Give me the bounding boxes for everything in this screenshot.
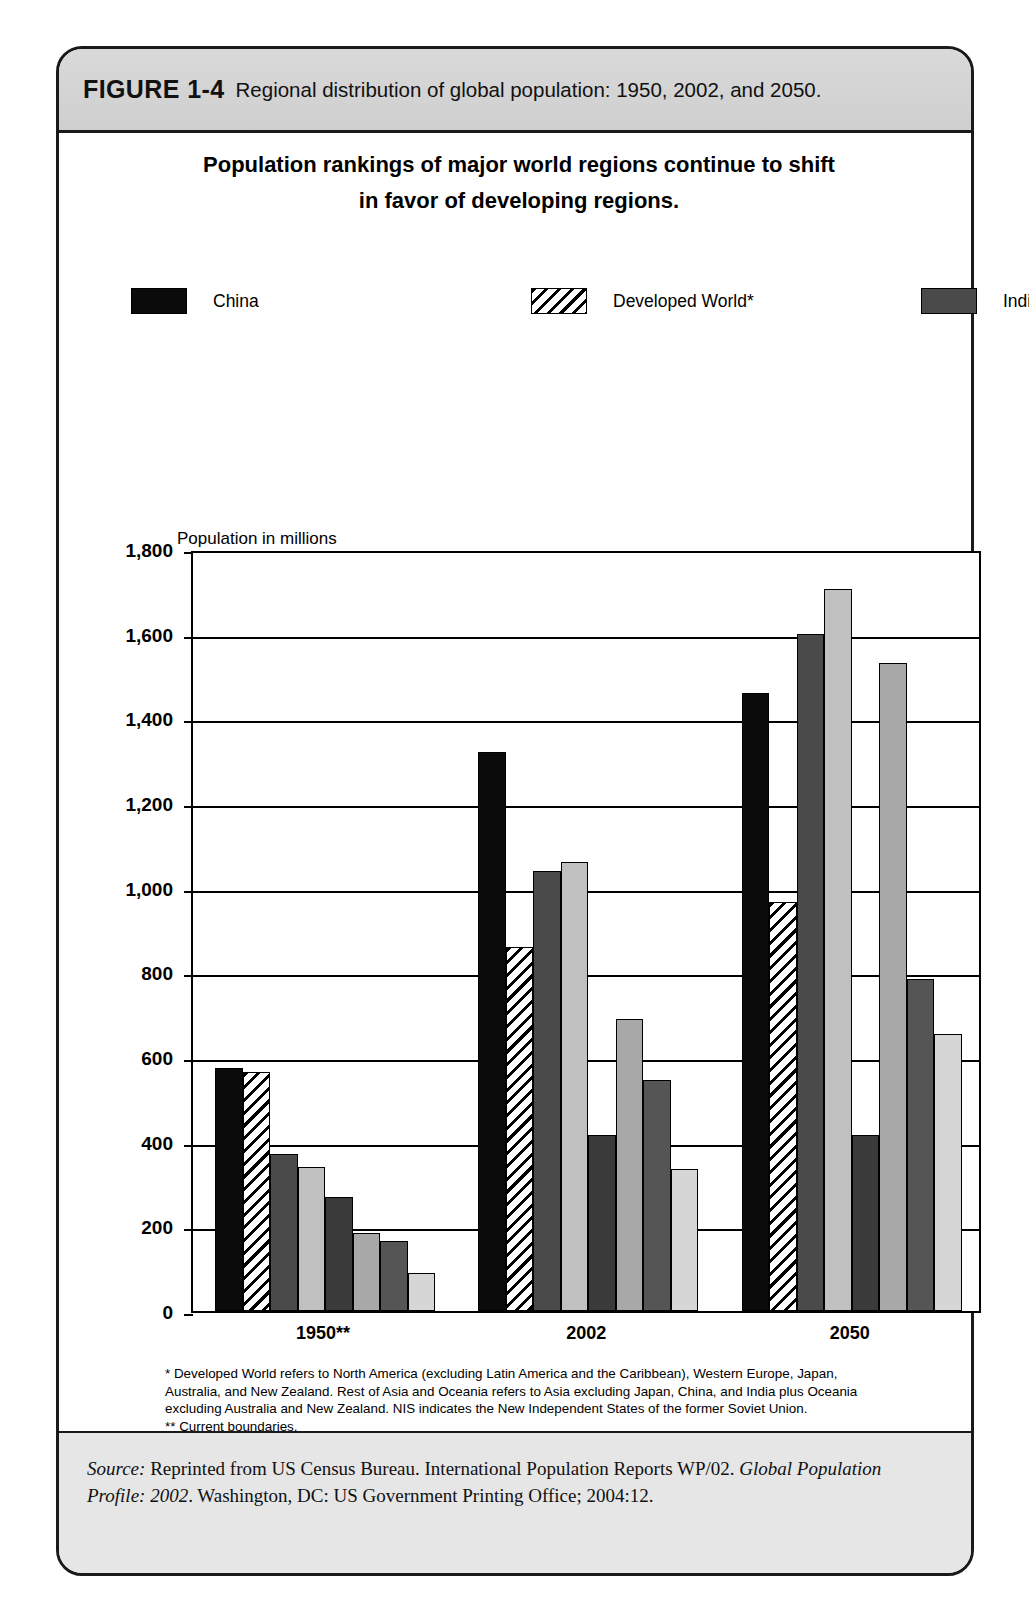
y-tick-label: 400 xyxy=(141,1133,173,1155)
bar xyxy=(353,1233,381,1311)
x-tick-label: 1950** xyxy=(296,1323,350,1344)
y-tick-mark xyxy=(184,552,193,554)
bar xyxy=(325,1197,353,1311)
y-tick-mark xyxy=(184,1229,193,1231)
y-tick-label: 1,600 xyxy=(125,625,173,647)
bar xyxy=(907,979,935,1311)
bar xyxy=(215,1068,243,1311)
legend-item-developed-world: Developed World* xyxy=(531,283,921,319)
bar xyxy=(742,693,770,1311)
chart-legend: China Developed World* India Rest of Asi… xyxy=(131,283,921,319)
bar xyxy=(588,1135,616,1311)
legend-label-china: China xyxy=(213,291,259,312)
y-tick-label: 200 xyxy=(141,1217,173,1239)
bar xyxy=(879,663,907,1311)
bar-series-container xyxy=(193,553,979,1311)
bar xyxy=(934,1034,962,1311)
chart-title-line-1: Population rankings of major world regio… xyxy=(119,147,919,183)
bar xyxy=(243,1072,271,1311)
bar xyxy=(852,1135,880,1311)
legend-label-india: India xyxy=(1003,291,1029,312)
legend-swatch-india xyxy=(921,288,977,314)
footnote-line-1: * Developed World refers to North Americ… xyxy=(165,1365,965,1383)
x-axis-labels: 1950**20022050 xyxy=(191,1323,981,1363)
legend-label-developed-world: Developed World* xyxy=(613,291,754,312)
footnote: * Developed World refers to North Americ… xyxy=(165,1365,965,1435)
y-tick-label: 600 xyxy=(141,1048,173,1070)
legend-swatch-china xyxy=(131,288,187,314)
source-text: Source: Reprinted from US Census Bureau.… xyxy=(87,1455,943,1509)
bar xyxy=(408,1273,436,1311)
bar xyxy=(533,871,561,1311)
y-tick-mark xyxy=(184,721,193,723)
source-label: Source: xyxy=(87,1458,145,1479)
bar xyxy=(270,1154,298,1311)
chart-title-line-2: in favor of developing regions. xyxy=(119,183,919,219)
y-tick-mark xyxy=(184,891,193,893)
y-tick-mark xyxy=(184,637,193,639)
chart-title: Population rankings of major world regio… xyxy=(119,147,919,219)
bar xyxy=(380,1241,408,1311)
y-tick-label: 800 xyxy=(141,963,173,985)
y-tick-label: 1,200 xyxy=(125,794,173,816)
bar xyxy=(616,1019,644,1311)
y-tick-mark xyxy=(184,806,193,808)
plot-frame xyxy=(191,551,981,1313)
bar xyxy=(797,634,825,1311)
plot-wrap: 02004006008001,0001,2001,4001,6001,800 1… xyxy=(99,551,983,1341)
figure-caption: Regional distribution of global populati… xyxy=(236,78,822,102)
legend-swatch-developed-world xyxy=(531,288,587,314)
y-tick-mark xyxy=(184,1145,193,1147)
bar xyxy=(298,1167,326,1311)
y-tick-label: 1,400 xyxy=(125,709,173,731)
y-tick-mark xyxy=(184,1060,193,1062)
y-tick-label: 0 xyxy=(162,1302,173,1324)
legend-item-china: China xyxy=(131,283,531,319)
x-tick-label: 2002 xyxy=(566,1323,606,1344)
source-part-2: . Washington, DC: US Government Printing… xyxy=(188,1485,653,1506)
figure-header: FIGURE 1-4 Regional distribution of glob… xyxy=(59,49,971,133)
y-axis-caption: Population in millions xyxy=(177,529,337,549)
bar xyxy=(478,752,506,1311)
legend-item-india: India xyxy=(921,283,1029,319)
source-box: Source: Reprinted from US Census Bureau.… xyxy=(59,1431,971,1573)
y-tick-label: 1,800 xyxy=(125,540,173,562)
figure-card: FIGURE 1-4 Regional distribution of glob… xyxy=(56,46,974,1576)
source-part-1: Reprinted from US Census Bureau. Interna… xyxy=(145,1458,739,1479)
bar xyxy=(671,1169,699,1311)
bar xyxy=(561,862,589,1311)
footnote-line-2: Australia, and New Zealand. Rest of Asia… xyxy=(165,1383,965,1401)
bar xyxy=(769,902,797,1311)
y-axis-labels: 02004006008001,0001,2001,4001,6001,800 xyxy=(99,551,181,1313)
bar xyxy=(824,589,852,1311)
chart-area: Population rankings of major world regio… xyxy=(59,133,971,1433)
bar xyxy=(506,947,534,1311)
y-tick-label: 1,000 xyxy=(125,879,173,901)
x-tick-label: 2050 xyxy=(830,1323,870,1344)
bar xyxy=(643,1080,671,1311)
figure-number: FIGURE 1-4 xyxy=(83,75,225,104)
y-tick-mark xyxy=(184,1314,193,1316)
y-tick-mark xyxy=(184,975,193,977)
footnote-line-3: excluding Australia and New Zealand. NIS… xyxy=(165,1400,965,1418)
